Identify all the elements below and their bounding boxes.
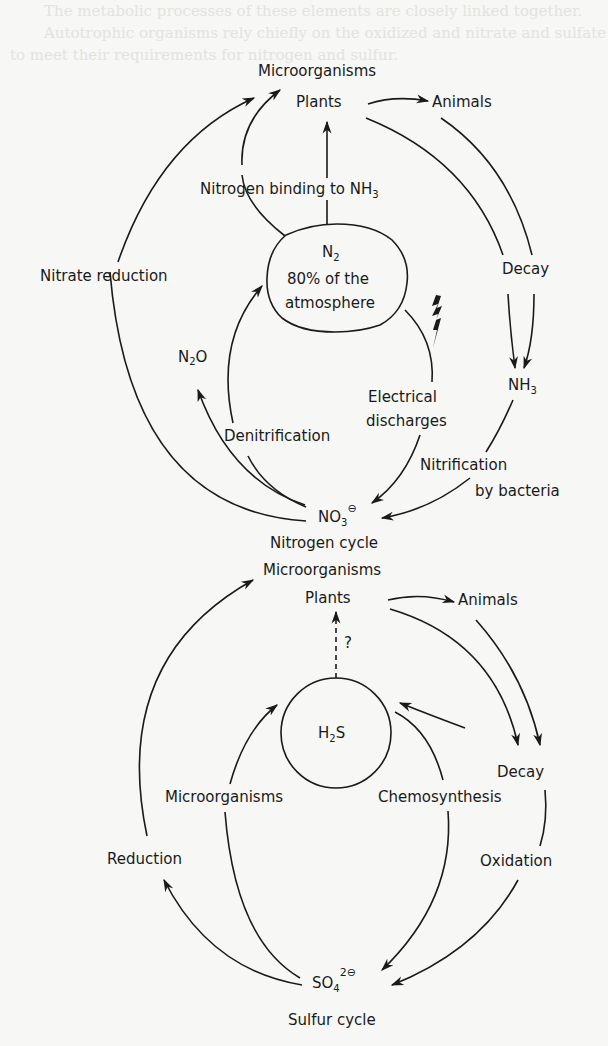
arrow-animals-to-decay bbox=[476, 620, 540, 745]
arrow-plants-to-animals bbox=[368, 99, 428, 104]
cycles-diagram: Microorganisms Plants Animals Nitrogen b… bbox=[0, 0, 608, 1046]
n2o-label: N2O bbox=[178, 348, 207, 367]
nitrate-reduction-label: Nitrate reduction bbox=[40, 267, 168, 285]
arrow-decay-to-nh3-right bbox=[524, 294, 534, 368]
s-decay-label: Decay bbox=[497, 763, 544, 781]
arrow-denitrification-to-n2 bbox=[228, 286, 262, 423]
nitrification-label-1: Nitrification bbox=[420, 456, 507, 474]
line-n2-to-electrical bbox=[405, 310, 432, 382]
nitrogen-cycle: Microorganisms Plants Animals Nitrogen b… bbox=[40, 62, 560, 552]
line-no3-denitrification bbox=[248, 456, 306, 507]
line-chemosynthesis-to-h2s bbox=[395, 712, 443, 780]
arrow-nh3-to-nitrification bbox=[486, 400, 513, 452]
sulfur-cycle: Microorganisms Plants Animals ? H2S Deca… bbox=[107, 561, 552, 1029]
reduction-label: Reduction bbox=[107, 850, 182, 868]
lightning-bolt-icon bbox=[432, 295, 442, 348]
so4-label: SO42⊖ bbox=[312, 966, 356, 994]
nitrogen-cycle-title: Nitrogen cycle bbox=[270, 534, 378, 552]
s-microorganisms-top-label: Microorganisms bbox=[263, 561, 381, 579]
diagram-page: The metabolic processes of these element… bbox=[0, 0, 608, 1046]
n-decay-label: Decay bbox=[502, 260, 549, 278]
arrow-no3-to-n2o bbox=[198, 390, 305, 505]
line-decay-to-oxidation bbox=[540, 790, 546, 846]
electrical-label-1: Electrical bbox=[368, 388, 437, 406]
arrow-nitrification-to-no3 bbox=[382, 478, 470, 518]
oxidation-label: Oxidation bbox=[480, 852, 552, 870]
arrow-decay-to-nh3-left bbox=[508, 294, 515, 368]
arrow-oxidation-to-so4 bbox=[392, 880, 518, 985]
chemosynthesis-label: Chemosynthesis bbox=[378, 788, 502, 806]
line-animals-to-decay bbox=[441, 118, 532, 255]
arrow-n2-to-microorganisms bbox=[242, 90, 285, 236]
n-animals-label: Animals bbox=[432, 93, 492, 111]
n2-desc-line1: 80% of the bbox=[287, 270, 369, 288]
arrow-so4-to-reduction bbox=[164, 880, 302, 985]
line-so4-to-microorganisms bbox=[225, 812, 300, 978]
denitrification-label: Denitrification bbox=[224, 427, 330, 445]
nitrification-label-2: by bacteria bbox=[475, 482, 560, 500]
arrow-decay-to-h2s bbox=[400, 703, 465, 728]
arrow-electrical-to-no3 bbox=[372, 435, 420, 503]
nitrogen-binding-label: Nitrogen binding to NH3 bbox=[200, 180, 379, 200]
no3-label: NO3⊖ bbox=[318, 502, 357, 528]
n-plants-label: Plants bbox=[296, 93, 342, 111]
n-microorganisms-label: Microorganisms bbox=[258, 62, 376, 80]
arrow-plants-to-animals bbox=[388, 596, 454, 602]
s-question-mark: ? bbox=[344, 634, 352, 652]
sulfur-cycle-title: Sulfur cycle bbox=[288, 1011, 376, 1029]
n2-desc-line2: atmosphere bbox=[285, 294, 375, 312]
s-microorganisms-bottom-label: Microorganisms bbox=[165, 788, 283, 806]
line-no3-to-nitrate-reduction bbox=[110, 272, 306, 521]
electrical-label-2: discharges bbox=[366, 412, 447, 430]
arrow-microorganisms-to-h2s bbox=[230, 705, 277, 784]
n2-label: N2 bbox=[322, 243, 340, 263]
line-plants-to-decay bbox=[366, 118, 503, 255]
h2s-label: H2S bbox=[318, 724, 345, 744]
s-plants-label: Plants bbox=[305, 589, 351, 607]
s-animals-label: Animals bbox=[458, 591, 518, 609]
arrow-chemosynthesis-to-so4 bbox=[382, 811, 449, 970]
nh3-label: NH3 bbox=[508, 376, 537, 396]
